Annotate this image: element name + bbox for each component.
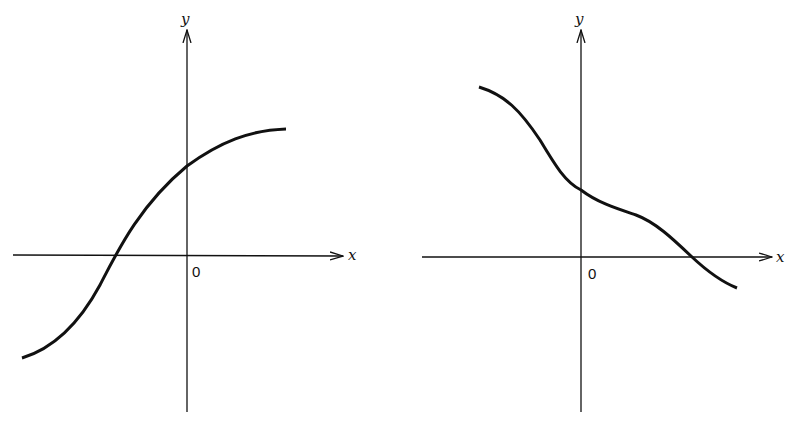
left-origin-label: 0 <box>192 263 200 280</box>
figure-canvas: x y 0 x y 0 <box>0 0 792 424</box>
left-y-label: y <box>180 10 190 28</box>
right-y-label: y <box>574 10 584 28</box>
left-curve <box>22 129 286 358</box>
right-graph: x y 0 <box>422 10 785 412</box>
left-x-label: x <box>348 246 357 264</box>
left-x-axis <box>13 255 343 256</box>
left-graph: x y 0 <box>13 10 357 412</box>
right-curve <box>479 87 737 288</box>
right-origin-label: 0 <box>588 265 596 282</box>
right-x-label: x <box>776 248 785 266</box>
